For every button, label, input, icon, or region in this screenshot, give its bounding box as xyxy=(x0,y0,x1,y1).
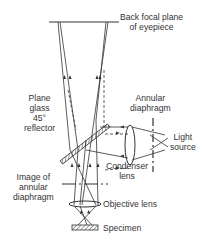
specimen xyxy=(72,225,98,230)
label-objective-lens: Objective lens xyxy=(103,199,157,209)
microscope-diagram: Back focal plane of eyepiece Plane glass… xyxy=(0,0,206,243)
rays xyxy=(58,22,108,205)
plane-glass-reflector xyxy=(60,124,110,164)
label-specimen: Specimen xyxy=(103,223,141,233)
label-back-focal-plane: Back focal plane of eyepiece xyxy=(120,12,183,32)
label-image-of-annular-diaphragm: Image of annular diaphragm xyxy=(13,172,54,202)
label-condenser-lens: Condenser lens xyxy=(106,161,148,181)
label-plane-glass-reflector: Plane glass 45° reflector xyxy=(24,93,55,133)
condenser-lens xyxy=(125,125,135,165)
label-annular-diaphragm: Annular diaphragm xyxy=(130,93,171,113)
label-light-source: Light source xyxy=(170,132,196,152)
